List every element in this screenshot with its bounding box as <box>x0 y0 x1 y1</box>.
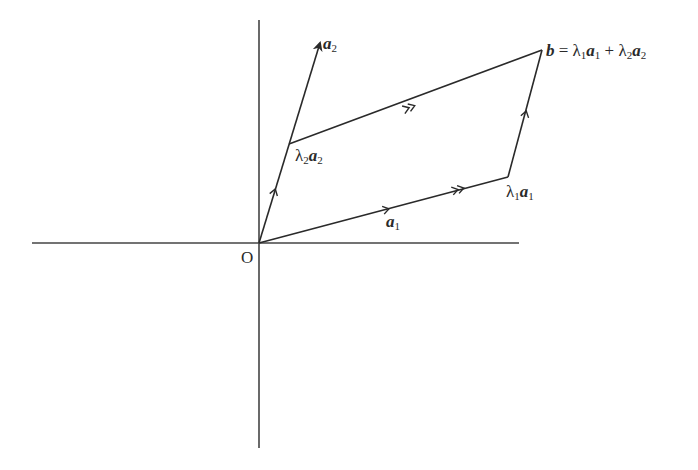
label-a2: a2 <box>323 35 337 54</box>
a2-sub: 2 <box>332 42 338 54</box>
label-lambda2-a2: λ2a2 <box>295 147 323 166</box>
plus-sign: + <box>600 41 618 60</box>
double-chevron-top <box>402 102 416 114</box>
lambda2-coef: λ <box>295 146 303 165</box>
label-b-equation: b = λ1a1 + λ2a2 <box>546 42 646 61</box>
b-vec: b <box>546 41 555 60</box>
a2-vec: a <box>323 34 332 53</box>
side-lambda1a1-to-b <box>508 50 542 177</box>
side-lambda2a2-to-b <box>289 50 542 144</box>
vector-lambda1-a1 <box>259 177 508 243</box>
a1-sub: 1 <box>395 220 401 232</box>
vector-diagram: O a2 a1 λ2a2 λ1a1 b = λ1a1 + λ2a2 <box>0 0 698 470</box>
label-origin: O <box>241 249 253 266</box>
diagram-svg <box>0 0 698 470</box>
lambda1-vec-sub: 1 <box>528 190 534 202</box>
label-a1: a1 <box>386 213 400 232</box>
origin-text: O <box>241 248 253 267</box>
label-lambda1-a1: λ1a1 <box>506 183 534 202</box>
t2-vec: a <box>632 41 641 60</box>
lambda2-vec-sub: 2 <box>317 154 323 166</box>
t2-vec-sub: 2 <box>641 49 647 61</box>
double-chevron-a1 <box>451 184 465 195</box>
t2-coef: λ <box>618 41 626 60</box>
a1-vec: a <box>386 212 395 231</box>
t1-vec: a <box>586 41 595 60</box>
t1-coef: λ <box>573 41 581 60</box>
lambda1-coef: λ <box>506 182 514 201</box>
lambda1-vec: a <box>520 182 529 201</box>
equals-sign: = <box>555 41 573 60</box>
lambda2-vec: a <box>309 146 318 165</box>
